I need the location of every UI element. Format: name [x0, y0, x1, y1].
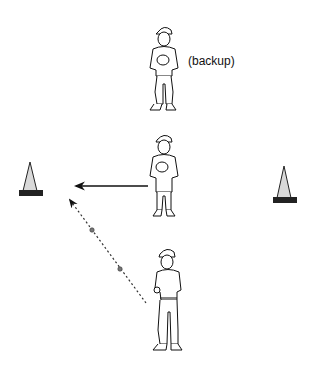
dotted-throw-arrow: [70, 200, 146, 303]
cone-left: [19, 162, 43, 196]
drill-diagram: (backup): [0, 0, 312, 368]
cone-right: [273, 166, 297, 203]
ball-marker: [118, 267, 122, 271]
backup-label: (backup): [188, 54, 235, 68]
ball-marker: [90, 228, 94, 232]
player-coach: [153, 249, 182, 350]
player-middle: [150, 135, 178, 216]
player-backup: [150, 27, 178, 110]
